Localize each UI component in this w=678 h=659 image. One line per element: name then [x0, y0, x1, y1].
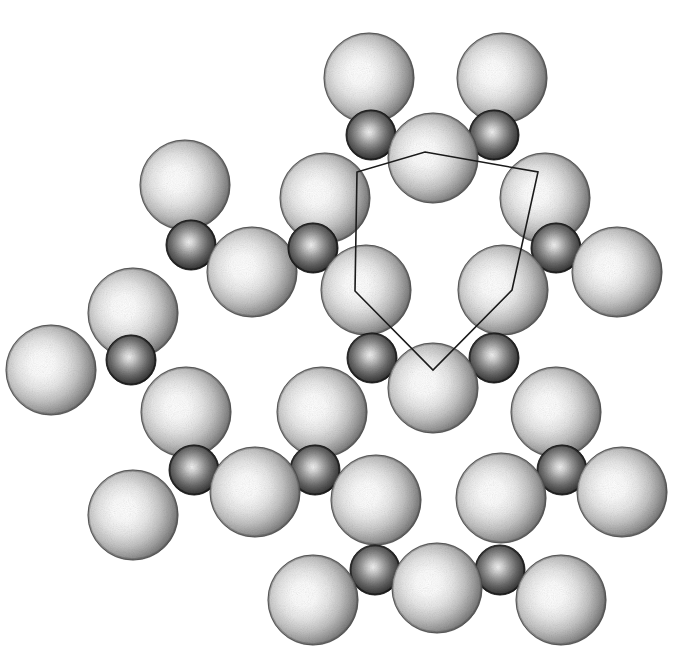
oxygen-sphere [268, 555, 358, 645]
oxygen-sphere [577, 447, 667, 537]
oxygen-sphere [88, 470, 178, 560]
oxygen-sphere [392, 543, 482, 633]
oxygen-sphere [331, 455, 421, 545]
oxygen-sphere [321, 245, 411, 335]
oxygen-sphere [324, 33, 414, 123]
oxygen-sphere [572, 227, 662, 317]
oxygen-sphere [456, 453, 546, 543]
oxygen-sphere [388, 113, 478, 203]
figure-canvas: ( ) y g [0, 0, 678, 659]
oxygen-sphere [6, 325, 96, 415]
oxygen-sphere [457, 33, 547, 123]
oxygen-sphere [458, 245, 548, 335]
oxygen-sphere [388, 343, 478, 433]
oxygen-sphere [140, 140, 230, 230]
oxygen-sphere [516, 555, 606, 645]
silicon-sphere [106, 335, 156, 385]
oxygen-sphere [277, 367, 367, 457]
molecular-structure-figure [0, 0, 678, 659]
oxygen-sphere [207, 227, 297, 317]
oxygen-sphere [141, 367, 231, 457]
oxygen-sphere [210, 447, 300, 537]
oxygen-sphere [511, 367, 601, 457]
